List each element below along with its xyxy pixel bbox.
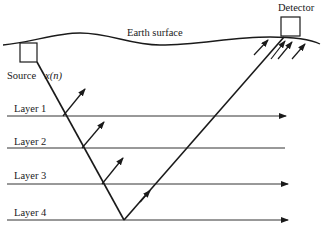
reflection-arrow-layer-1 [63, 89, 85, 116]
layer-2-label: Layer 2 [14, 137, 46, 148]
layer-4-label: Layer 4 [14, 208, 46, 219]
signal-label: x(n) [45, 71, 62, 82]
detector-box [281, 17, 300, 36]
source-box [20, 43, 37, 62]
arrival-arrow-1 [254, 40, 268, 55]
arrival-arrow-3 [278, 42, 292, 59]
incident-ray [37, 62, 124, 220]
reflection-arrow-layer-3 [102, 158, 123, 184]
reflection-arrow-layer-2 [82, 122, 104, 148]
arrival-arrow-4 [292, 44, 305, 59]
source-label: Source [7, 71, 36, 82]
reflected-ray-arrow [140, 191, 150, 203]
layer-3-label: Layer 3 [14, 171, 46, 182]
earth-surface-label: Earth surface [127, 28, 183, 39]
layer-1-label: Layer 1 [14, 104, 46, 115]
detector-label: Detector [278, 3, 314, 14]
